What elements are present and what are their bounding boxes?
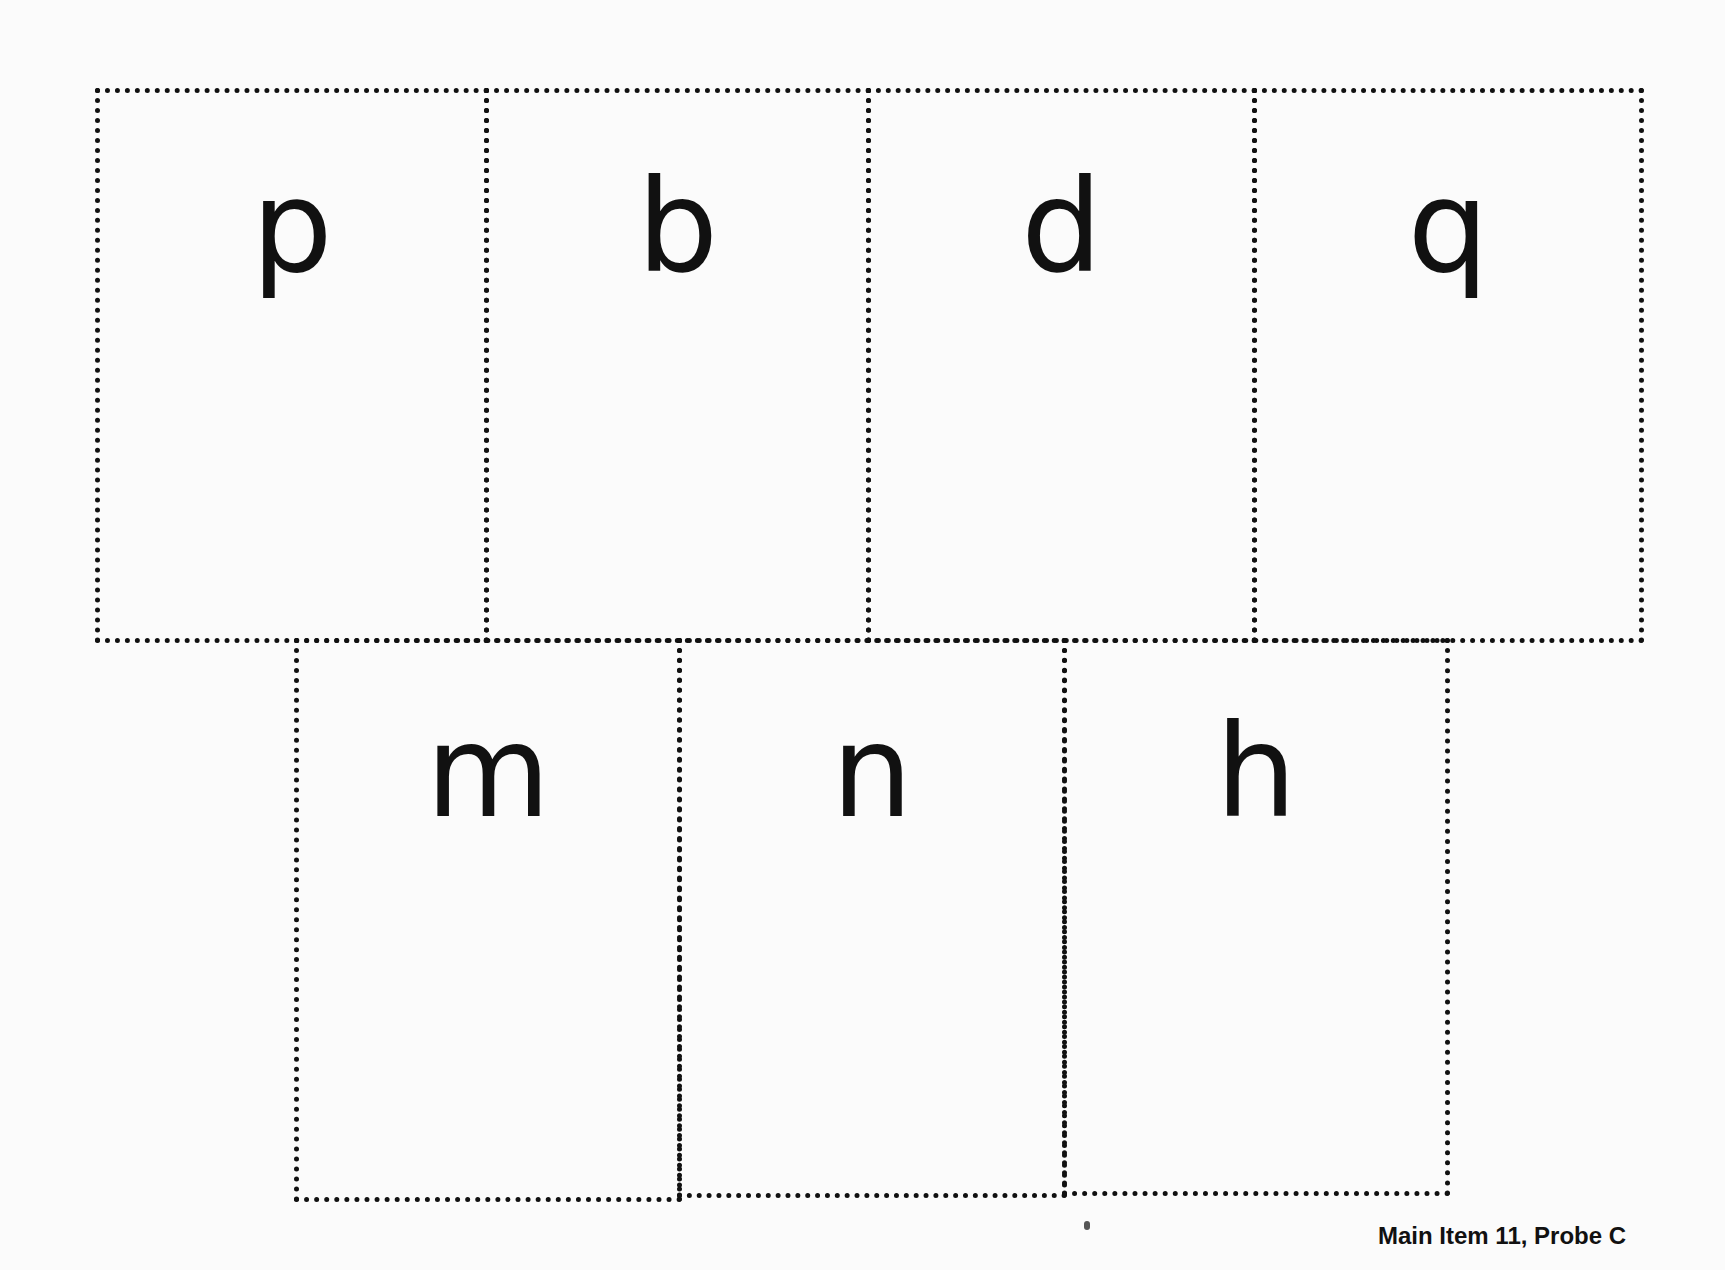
letter-h: h [1067,708,1445,836]
letter-card-n: n [677,638,1067,1198]
item-label: Main Item 11, Probe C [1378,1222,1626,1250]
letter-b: b [489,163,866,291]
letter-card-d: d [866,88,1257,643]
letter-card-b: b [484,88,871,643]
letter-card-p: p [95,88,489,643]
letter-p: p [100,163,484,291]
letter-n: n [682,708,1062,836]
letter-card-h: h [1062,638,1450,1196]
letter-card-m: m [294,638,682,1202]
letter-q: q [1257,163,1639,291]
letter-d: d [871,163,1252,291]
scan-speck [1084,1221,1090,1230]
letter-m: m [299,708,677,836]
letter-card-q: q [1252,88,1644,643]
